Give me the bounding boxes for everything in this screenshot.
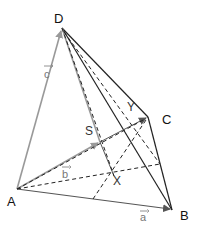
label-X: X <box>113 174 121 188</box>
line-D-S <box>62 28 100 142</box>
thin-lines <box>100 118 146 176</box>
label-D: D <box>54 11 63 26</box>
label-S: S <box>85 124 93 138</box>
gray-lines <box>17 28 170 209</box>
vector-label-c: c <box>44 65 53 81</box>
label-B: B <box>180 208 189 223</box>
line-S-X <box>100 142 114 176</box>
tetrahedron-diagram: D C A B S X Y c b a <box>0 0 199 237</box>
dashed-D-midCB <box>64 32 160 164</box>
label-Y: Y <box>127 100 135 114</box>
svg-text:a: a <box>140 211 147 223</box>
vector-b <box>17 143 98 189</box>
svg-text:c: c <box>44 68 50 80</box>
vector-label-a: a <box>140 210 149 224</box>
dashed-A-C <box>17 119 145 189</box>
svg-text:b: b <box>62 168 68 180</box>
edge-DC <box>62 28 148 117</box>
vector-c <box>17 31 61 189</box>
label-A: A <box>7 194 16 209</box>
line-S-C <box>100 118 146 142</box>
vector-label-b: b <box>62 166 71 181</box>
label-C: C <box>162 112 171 127</box>
